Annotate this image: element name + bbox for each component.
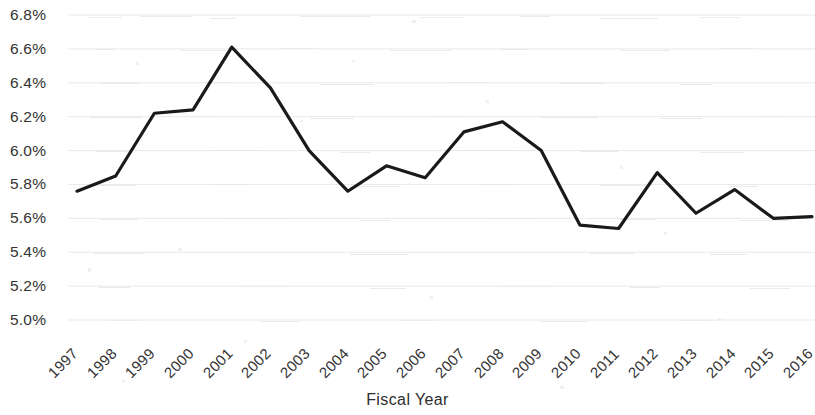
x-tick-label: 2007 [431,345,467,381]
x-tick-label: 2013 [663,345,699,381]
x-tick-label: 2004 [315,345,351,381]
y-tick-label: 6.8% [10,7,68,23]
x-tick-label: 2003 [277,345,313,381]
y-tick-label: 5.8% [10,176,68,192]
x-tick-label: 2002 [238,345,274,381]
x-tick-label: 2006 [393,345,429,381]
x-tick-label: 2015 [741,345,777,381]
x-tick-label: 2011 [586,345,622,381]
line-chart-figure: 6.8% 6.6% 6.4% 6.2% 6.0% 5.8% 5.6% 5.4% … [0,0,815,415]
x-tick-label: 2012 [625,345,661,381]
x-axis-tick-labels: 1997199819992000200120022003200420052006… [68,328,815,388]
x-tick-label: 2009 [509,345,545,381]
y-axis-tick-labels: 6.8% 6.6% 6.4% 6.2% 6.0% 5.8% 5.6% 5.4% … [6,0,68,415]
y-tick-label: 5.6% [10,210,68,226]
x-axis-title: Fiscal Year [0,391,815,409]
y-tick-label: 6.0% [10,143,68,159]
x-tick-label: 1999 [122,345,158,381]
y-tick-label: 5.0% [10,312,68,328]
x-tick-label: 2005 [354,345,390,381]
x-tick-label: 2000 [161,345,197,381]
x-tick-label: 1998 [83,345,119,381]
y-tick-label: 6.6% [10,41,68,57]
x-tick-label: 2010 [547,345,583,381]
y-tick-label: 6.2% [10,109,68,125]
y-tick-label: 6.4% [10,75,68,91]
x-tick-label: 2014 [702,345,738,381]
x-tick-label: 2016 [779,345,815,381]
x-tick-label: 2008 [470,345,506,381]
data-series-line [77,47,812,228]
plot-area [68,8,815,328]
y-tick-label: 5.2% [10,278,68,294]
gridlines [68,15,815,320]
x-tick-label: 2001 [199,345,235,381]
plot-svg [68,8,815,328]
y-tick-label: 5.4% [10,244,68,260]
